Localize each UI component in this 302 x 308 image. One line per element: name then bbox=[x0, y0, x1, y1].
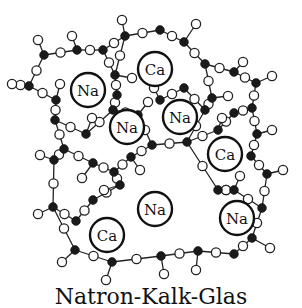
oxygen-atom bbox=[198, 161, 207, 170]
silicon-atom bbox=[121, 32, 130, 41]
oxygen-atom bbox=[33, 35, 42, 44]
ion-label: Na bbox=[144, 201, 166, 219]
silicon-atom bbox=[110, 168, 119, 177]
oxygen-atom bbox=[240, 73, 249, 82]
oxygen-atom bbox=[217, 113, 226, 122]
calcium-ion: Ca bbox=[208, 137, 242, 171]
oxygen-atom bbox=[127, 73, 136, 82]
silicon-atom bbox=[230, 186, 239, 195]
oxygen-atom bbox=[99, 163, 108, 172]
oxygen-atom bbox=[56, 48, 65, 57]
oxygen-atom bbox=[109, 38, 118, 47]
oxygen-atom bbox=[190, 94, 199, 103]
ion-label: Na bbox=[116, 119, 138, 137]
oxygen-atom bbox=[267, 71, 276, 80]
ion-label: Na bbox=[226, 210, 248, 228]
oxygen-atom bbox=[60, 209, 69, 218]
silicon-atom bbox=[201, 106, 210, 115]
silicon-atom bbox=[72, 217, 81, 226]
calcium-ion: Ca bbox=[90, 218, 124, 252]
oxygen-atom bbox=[211, 248, 220, 257]
oxygen-atom bbox=[35, 150, 44, 159]
modifier-ions: NaCaNaNaCaNaCaNa bbox=[71, 52, 254, 252]
silicon-atom bbox=[214, 186, 223, 195]
oxygen-atom bbox=[175, 249, 184, 258]
silicon-atom bbox=[49, 203, 58, 212]
ion-label: Ca bbox=[215, 146, 235, 164]
oxygen-atom bbox=[204, 76, 213, 85]
silicon-atom bbox=[127, 153, 136, 162]
calcium-ion: Ca bbox=[138, 52, 172, 86]
oxygen-atom bbox=[254, 160, 263, 169]
silicon-atom bbox=[180, 38, 189, 47]
sodium-ion: Na bbox=[163, 100, 197, 134]
oxygen-atom bbox=[59, 224, 68, 233]
silicon-atom bbox=[263, 170, 272, 179]
silicon-atom bbox=[50, 156, 59, 165]
oxygen-atom bbox=[115, 51, 124, 60]
oxygen-atom bbox=[132, 254, 141, 263]
oxygen-atom bbox=[66, 122, 75, 131]
silicon-atom bbox=[258, 204, 267, 213]
oxygen-atom bbox=[117, 15, 126, 24]
diagram-caption: Natron-Kalk-Glas bbox=[0, 284, 302, 308]
silicon-atom bbox=[52, 96, 61, 105]
ion-label: Ca bbox=[97, 227, 117, 245]
oxygen-atom bbox=[238, 57, 247, 66]
sodium-ion: Na bbox=[110, 110, 144, 144]
silicon-atom bbox=[108, 258, 117, 267]
sodium-ion: Na bbox=[138, 192, 172, 226]
silicon-atom bbox=[89, 159, 98, 168]
oxygen-atom bbox=[137, 146, 146, 155]
oxygen-atom bbox=[198, 131, 207, 140]
silicon-atom bbox=[40, 51, 49, 60]
oxygen-atom bbox=[74, 151, 83, 160]
oxygen-atom bbox=[99, 185, 108, 194]
oxygen-atom bbox=[250, 116, 259, 125]
ion-label: Ca bbox=[145, 61, 165, 79]
silicon-atom bbox=[201, 60, 210, 69]
silicon-atom bbox=[180, 84, 189, 93]
oxygen-atom bbox=[138, 28, 147, 37]
silicon-atom bbox=[208, 94, 217, 103]
silicon-atom bbox=[116, 181, 125, 190]
silicon-atom bbox=[99, 46, 108, 55]
oxygen-atom bbox=[238, 106, 247, 115]
oxygen-atom bbox=[249, 140, 258, 149]
sodium-ion: Na bbox=[220, 201, 254, 235]
silicon-atom bbox=[113, 91, 122, 100]
silicon-atom bbox=[111, 71, 120, 80]
silicon-atom bbox=[230, 250, 239, 259]
oxygen-atom bbox=[165, 139, 174, 148]
oxygen-atom bbox=[235, 171, 244, 180]
silicon-atom bbox=[194, 247, 203, 256]
oxygen-atom bbox=[80, 206, 89, 215]
oxygen-atom bbox=[33, 209, 42, 218]
silicon-atom bbox=[157, 252, 166, 261]
oxygen-atom bbox=[111, 80, 120, 89]
oxygen-atom bbox=[57, 257, 66, 266]
oxygen-atom bbox=[32, 66, 41, 75]
oxygen-atom bbox=[38, 88, 47, 97]
silicon-atom bbox=[248, 104, 257, 113]
silicon-atom bbox=[82, 130, 91, 139]
silicon-atom bbox=[253, 130, 262, 139]
oxygen-atom bbox=[55, 79, 64, 88]
oxygen-atom bbox=[278, 165, 287, 174]
oxygen-atom bbox=[167, 31, 176, 40]
oxygen-atom bbox=[67, 31, 76, 40]
oxygen-atom bbox=[191, 265, 200, 274]
silicon-atom bbox=[230, 109, 239, 118]
oxygen-atom bbox=[89, 251, 98, 260]
oxygen-atom bbox=[49, 179, 58, 188]
sodium-ion: Na bbox=[71, 73, 105, 107]
oxygen-atom bbox=[143, 97, 152, 106]
ion-label: Na bbox=[77, 82, 99, 100]
oxygen-atom bbox=[238, 241, 247, 250]
silicon-atom bbox=[71, 246, 80, 255]
silicon-atom bbox=[89, 196, 98, 205]
silicon-atom bbox=[73, 46, 82, 55]
oxygen-atom bbox=[265, 243, 274, 252]
silicon-atom bbox=[214, 126, 223, 135]
silicon-atom bbox=[51, 116, 60, 125]
